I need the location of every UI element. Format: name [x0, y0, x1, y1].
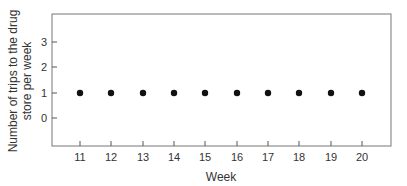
x-tick-label: 20 — [356, 151, 368, 163]
data-point — [359, 90, 365, 96]
y-axis: 3 2 1 0 — [41, 36, 57, 124]
x-axis-title: Week — [206, 170, 237, 184]
x-tick-label: 16 — [231, 151, 243, 163]
data-point — [328, 90, 334, 96]
data-point — [234, 90, 240, 96]
y-axis-title-line-1: Number of trips to the drug — [6, 10, 20, 153]
data-series — [77, 90, 365, 96]
x-tick-label: 11 — [74, 151, 85, 163]
y-tick-label: 1 — [41, 87, 47, 99]
x-tick-label: 13 — [137, 151, 149, 163]
chart: 3 2 1 0 11 12 13 14 15 16 17 18 19 20 — [0, 0, 407, 186]
x-tick-label: 14 — [168, 151, 180, 163]
data-point — [265, 90, 271, 96]
y-tick-label: 2 — [41, 61, 47, 73]
data-point — [171, 90, 177, 96]
data-point — [202, 90, 208, 96]
y-axis-title: Number of trips to the drug store per we… — [6, 10, 34, 153]
x-tick-label: 18 — [293, 151, 305, 163]
data-point — [108, 90, 114, 96]
data-point — [296, 90, 302, 96]
y-tick-label: 0 — [41, 112, 47, 124]
x-axis: 11 12 13 14 15 16 17 18 19 20 — [74, 141, 368, 163]
x-tick-label: 17 — [262, 151, 274, 163]
plot-frame — [52, 14, 391, 146]
y-tick-label: 3 — [41, 36, 47, 48]
data-point — [140, 90, 146, 96]
x-tick-label: 15 — [199, 151, 211, 163]
y-axis-title-line-2: store per week — [20, 41, 34, 121]
x-tick-label: 12 — [105, 151, 117, 163]
data-point — [77, 90, 83, 96]
x-tick-label: 19 — [325, 151, 337, 163]
